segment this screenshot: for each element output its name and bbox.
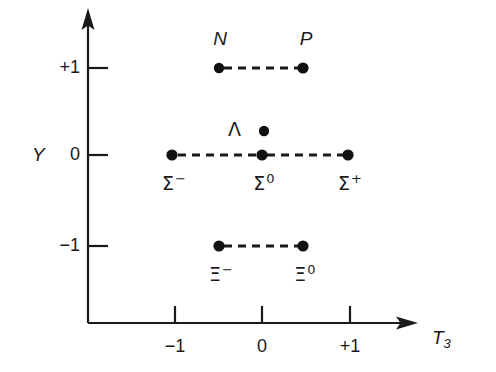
x-tick-label-plus1: +1 bbox=[340, 337, 361, 355]
xi-minus-charge: − bbox=[222, 262, 233, 277]
x-axis-name-subscript: 3 bbox=[444, 336, 451, 351]
particle-label-Sigma-zero: Σ0 bbox=[253, 172, 274, 193]
x-axis-group bbox=[88, 317, 418, 330]
particle-label-P: P bbox=[300, 29, 313, 48]
dot-Xi-zero bbox=[297, 240, 308, 251]
dot-P bbox=[297, 62, 308, 73]
y-axis-group bbox=[82, 8, 95, 323]
dot-Sigma-zero bbox=[256, 149, 267, 160]
dot-N bbox=[214, 63, 224, 73]
sigma-zero-glyph: Σ bbox=[253, 172, 265, 194]
sigma-zero-charge: 0 bbox=[266, 171, 274, 186]
plot-canvas bbox=[0, 0, 496, 372]
particle-label-Sigma-plus: Σ+ bbox=[338, 172, 362, 193]
xi-minus-glyph: Ξ bbox=[209, 263, 221, 285]
x-tick-label-minus1: −1 bbox=[165, 337, 186, 355]
xi-zero-glyph: Ξ bbox=[294, 263, 306, 285]
y-tick-label-zero: 0 bbox=[70, 145, 80, 163]
particle-label-Sigma-minus: Σ− bbox=[162, 172, 186, 193]
particle-label-Xi-minus: Ξ− bbox=[209, 263, 233, 284]
particle-label-N: N bbox=[213, 29, 227, 48]
x-tick-label-zero: 0 bbox=[257, 337, 267, 355]
sigma-plus-glyph: Σ bbox=[338, 172, 350, 194]
sigma-plus-charge: + bbox=[351, 171, 362, 186]
particle-label-Lambda: Λ bbox=[228, 120, 241, 139]
y-axis-ticks bbox=[88, 68, 108, 246]
y-tick-label-plus1: +1 bbox=[59, 58, 80, 76]
dot-Sigma-minus bbox=[166, 149, 177, 160]
y-tick-label-minus1: −1 bbox=[59, 236, 80, 254]
x-axis-ticks bbox=[175, 306, 350, 323]
dot-Lambda bbox=[259, 126, 269, 136]
lambda-glyph: Λ bbox=[228, 118, 241, 140]
y-axis-name: Y bbox=[32, 145, 45, 164]
x-axis-name-text: T bbox=[432, 327, 444, 348]
particle-label-Xi-zero: Ξ0 bbox=[294, 263, 315, 284]
sigma-minus-charge: − bbox=[175, 171, 186, 186]
sigma-minus-glyph: Σ bbox=[162, 172, 174, 194]
dot-Sigma-plus bbox=[342, 149, 353, 160]
dot-Xi-minus bbox=[213, 240, 224, 251]
baryon-octet-weight-diagram: Y +1 0 −1 −1 0 +1 T3 N P Σ− Σ0 Σ+ Λ Ξ− Ξ… bbox=[0, 0, 496, 372]
xi-zero-charge: 0 bbox=[307, 262, 315, 277]
particle-dots bbox=[166, 62, 353, 251]
x-axis-name: T3 bbox=[432, 328, 451, 350]
